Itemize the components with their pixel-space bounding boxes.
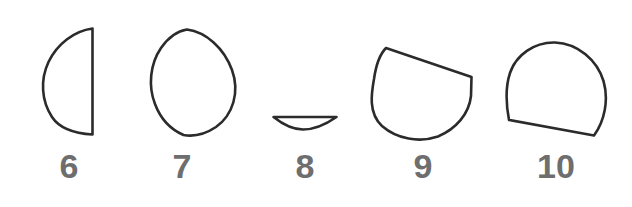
shape-outline-7 <box>151 30 235 136</box>
shape-outline-8 <box>274 117 337 130</box>
shape-label-8: 8 <box>282 149 328 183</box>
shape-outline-10 <box>507 42 606 135</box>
shape-outline-9 <box>372 48 472 140</box>
shape-label-9: 9 <box>400 149 446 183</box>
shape-label-7: 7 <box>159 149 205 183</box>
shape-label-10: 10 <box>528 149 584 183</box>
shape-outline-6 <box>43 29 92 135</box>
shape-figure: 6 7 8 9 10 <box>0 0 632 207</box>
shape-label-6: 6 <box>46 149 92 183</box>
